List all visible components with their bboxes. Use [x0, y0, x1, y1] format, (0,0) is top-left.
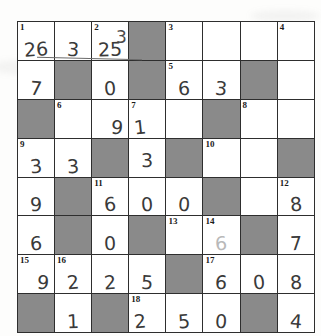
grid-cell[interactable]: 3: [166, 22, 203, 61]
handwritten-value: 0: [252, 272, 266, 293]
clue-number: 11: [94, 178, 103, 188]
handwritten-value: 3: [67, 39, 80, 60]
grid-cell[interactable]: 182: [129, 294, 166, 333]
grid-cell[interactable]: 9: [92, 99, 129, 138]
grid-cell[interactable]: 6: [18, 216, 55, 255]
grid-cell[interactable]: [277, 60, 314, 99]
handwritten-value: 3: [66, 155, 79, 176]
cell-digit: 3: [55, 156, 91, 176]
grid-cell[interactable]: [240, 177, 277, 216]
grid-cell-block: [129, 216, 166, 255]
handwritten-value: 0: [104, 77, 117, 98]
handwritten-value: 7: [29, 77, 43, 98]
grid-row: 60131467: [18, 216, 315, 255]
grid-cell-block: [129, 60, 166, 99]
handwritten-value: 9: [36, 272, 50, 293]
grid-cell[interactable]: 3: [203, 60, 240, 99]
grid-cell-block: [203, 177, 240, 216]
grid-table: 1263225347056369718933310911600128601314…: [17, 21, 315, 333]
grid-cell[interactable]: 0: [203, 294, 240, 333]
grid-cell[interactable]: 225: [92, 22, 129, 61]
clue-number: 7: [131, 100, 136, 110]
grid-cell[interactable]: 0: [166, 177, 203, 216]
grid-cell-block: [55, 60, 92, 99]
grid-row: 70563: [18, 60, 315, 99]
cell-digit: 26: [18, 39, 54, 59]
grid-cell[interactable]: 9: [18, 177, 55, 216]
grid-cell[interactable]: [240, 22, 277, 61]
grid-cell[interactable]: 1: [55, 294, 92, 333]
grid-cell-block: [240, 216, 277, 255]
handwritten-value: 1: [133, 116, 147, 137]
grid-cell[interactable]: 176: [203, 255, 240, 294]
grid-cell-block: [18, 294, 55, 333]
cell-digit: 7: [278, 233, 314, 253]
grid-cell[interactable]: [203, 22, 240, 61]
handwritten-value: 3: [141, 149, 154, 169]
grid-cell[interactable]: 10: [203, 138, 240, 177]
handwritten-value: 5: [141, 272, 154, 293]
handwritten-value: 6: [29, 233, 42, 254]
clue-number: 2: [94, 22, 99, 32]
grid-cell[interactable]: 7: [277, 216, 314, 255]
grid-row: 911600128: [18, 177, 315, 216]
grid-cell[interactable]: 71: [129, 99, 166, 138]
cell-digit: 1: [129, 117, 165, 137]
grid-cell[interactable]: 2: [92, 255, 129, 294]
handwritten-value: 3: [215, 77, 229, 98]
handwritten-value: 0: [141, 194, 154, 215]
grid-cell[interactable]: 7: [18, 60, 55, 99]
handwritten-value: 5: [178, 311, 191, 332]
grid-cell[interactable]: 0: [240, 255, 277, 294]
grid-cell[interactable]: [240, 138, 277, 177]
handwritten-value: 8: [289, 272, 302, 293]
grid-cell[interactable]: [277, 99, 314, 138]
cell-digit: 0: [129, 194, 165, 214]
grid-cell[interactable]: 13: [166, 216, 203, 255]
clue-number: 15: [20, 255, 29, 265]
grid-cell[interactable]: 56: [166, 60, 203, 99]
cell-digit: 6: [203, 272, 239, 292]
grid-cell[interactable]: 93: [18, 138, 55, 177]
clue-number: 18: [131, 294, 140, 304]
cell-digit: 0: [92, 78, 128, 98]
cell-digit: 5: [166, 311, 202, 331]
handwritten-value: 6: [103, 194, 117, 215]
grid-cell[interactable]: 8: [277, 255, 314, 294]
cell-digit: 0: [92, 233, 128, 253]
grid-cell[interactable]: 0: [92, 60, 129, 99]
cell-digit: 8: [278, 194, 314, 214]
grid-cell[interactable]: 5: [166, 294, 203, 333]
grid-cell[interactable]: 4: [277, 22, 314, 61]
grid-cell[interactable]: 0: [92, 216, 129, 255]
grid-cell[interactable]: 116: [92, 177, 129, 216]
grid-cell[interactable]: 6: [55, 99, 92, 138]
grid-cell[interactable]: [166, 99, 203, 138]
crossword-grid[interactable]: 1263225347056369718933310911600128601314…: [17, 21, 306, 324]
grid-cell[interactable]: 128: [277, 177, 314, 216]
grid-cell-block: [129, 22, 166, 61]
grid-cell[interactable]: 126: [18, 22, 55, 61]
grid-cell-block: [92, 294, 129, 333]
grid-cell[interactable]: 3: [55, 22, 92, 61]
handwritten-value: 9: [110, 116, 124, 137]
handwritten-value: 25: [98, 38, 123, 59]
cell-digit: 9: [18, 194, 54, 214]
grid-cell[interactable]: 8: [240, 99, 277, 138]
cell-digit: 3: [18, 156, 54, 176]
clue-number: 8: [243, 100, 248, 110]
grid-cell[interactable]: 3: [129, 138, 166, 177]
cell-digit: 8: [278, 272, 314, 292]
cell-digit: 5: [129, 272, 165, 292]
grid-cell[interactable]: 0: [129, 177, 166, 216]
grid-cell[interactable]: 5: [129, 255, 166, 294]
grid-cell[interactable]: 162: [55, 255, 92, 294]
grid-cell[interactable]: 4: [277, 294, 314, 333]
handwritten-value: 6: [178, 78, 191, 98]
handwritten-value: 7: [289, 233, 302, 253]
grid-cell[interactable]: 146: [203, 216, 240, 255]
grid-cell[interactable]: 3: [55, 138, 92, 177]
cell-digit: 9: [18, 272, 54, 292]
grid-cell[interactable]: 159: [18, 255, 55, 294]
grid-row: 1591622517608: [18, 255, 315, 294]
